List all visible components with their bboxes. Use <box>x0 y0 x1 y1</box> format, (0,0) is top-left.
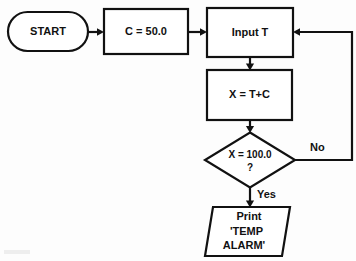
decision-threshold-shape <box>205 133 295 188</box>
scan-artifact <box>4 250 30 254</box>
branch-label-yes: Yes <box>257 188 276 200</box>
input-temp-label: Input T <box>232 26 269 38</box>
node-start[interactable]: START <box>8 12 88 51</box>
edge-compute-to-decision <box>246 120 254 133</box>
node-input-temp[interactable]: Input T <box>207 8 293 57</box>
decision-threshold-label-line1: X = 100.0 <box>228 149 272 160</box>
flowchart-canvas: START C = 50.0 Input T X = T+C X = 100.0… <box>0 0 356 261</box>
decision-threshold-label-line2: ? <box>247 162 253 173</box>
node-print-alarm[interactable]: Print 'TEMP ALARM' <box>205 207 290 256</box>
branch-label-no: No <box>310 141 325 153</box>
compute-x-label: X = T+C <box>229 88 270 100</box>
start-label: START <box>30 25 66 37</box>
node-compute-x[interactable]: X = T+C <box>207 70 292 120</box>
edge-constant-to-input <box>188 28 207 36</box>
print-alarm-label-line1: Print <box>236 210 261 222</box>
node-decision-threshold[interactable]: X = 100.0 ? <box>205 133 295 188</box>
node-set-constant[interactable]: C = 50.0 <box>104 9 188 54</box>
print-alarm-label-line3: ALARM' <box>223 239 266 251</box>
print-alarm-label-line2: 'TEMP <box>230 225 263 237</box>
edge-decision-yes <box>246 187 254 208</box>
flowchart-svg: START C = 50.0 Input T X = T+C X = 100.0… <box>0 0 356 261</box>
edge-input-to-compute <box>246 57 254 71</box>
set-constant-label: C = 50.0 <box>125 25 167 37</box>
edge-start-to-constant <box>88 28 104 36</box>
